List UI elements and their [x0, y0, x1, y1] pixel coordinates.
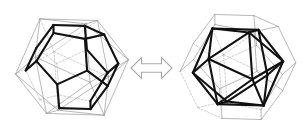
duality-figure: Dual pair of Platonic solids ↔ [0, 0, 303, 135]
right-inner-visible-edge-19 [218, 104, 264, 105]
left-inner-visible-edge-28 [59, 108, 90, 109]
duality-diagram-svg [0, 0, 303, 135]
left-inner-visible-edge-25 [53, 25, 84, 26]
right-inner-visible-edge-7 [212, 28, 258, 29]
